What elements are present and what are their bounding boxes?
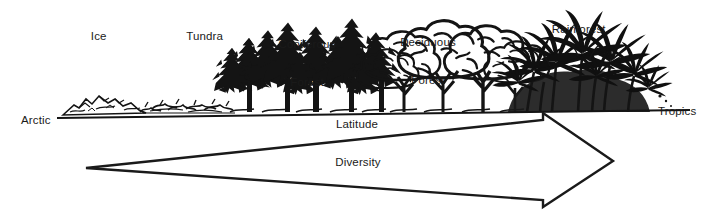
biome-label-tundra: Tundra (173, 17, 223, 55)
biome-label-ice: Ice (77, 17, 106, 55)
axis-label-latitude: Latitude (336, 118, 378, 131)
biome-label-rainforest: Rainforest (538, 10, 605, 48)
ice-mountains-illustration (63, 96, 146, 115)
biome-label-coniferous-forest-line1: Coniferous (278, 38, 335, 51)
biome-label-deciduous-forest: Deciduous Forest (400, 11, 456, 111)
latitude-diversity-figure: Ice Tundra Coniferous Forest Deciduous F… (0, 0, 714, 210)
figure-artwork (0, 0, 714, 210)
biome-label-deciduous-forest-line1: Deciduous (400, 36, 456, 49)
biome-label-ice-line1: Ice (91, 30, 107, 42)
axis-label-tropics: Tropics (658, 105, 696, 118)
tundra-scrub-illustration (140, 99, 235, 113)
biome-label-rainforest-line1: Rainforest (552, 23, 606, 35)
arrow-label-diversity: Diversity (335, 156, 380, 169)
biome-label-tundra-line1: Tundra (186, 30, 223, 42)
axis-label-arctic: Arctic (21, 114, 51, 127)
biome-label-coniferous-forest-line2: Forest (278, 76, 335, 89)
biome-label-coniferous-forest: Coniferous Forest (278, 13, 335, 113)
biome-label-deciduous-forest-line2: Forest (400, 74, 456, 87)
